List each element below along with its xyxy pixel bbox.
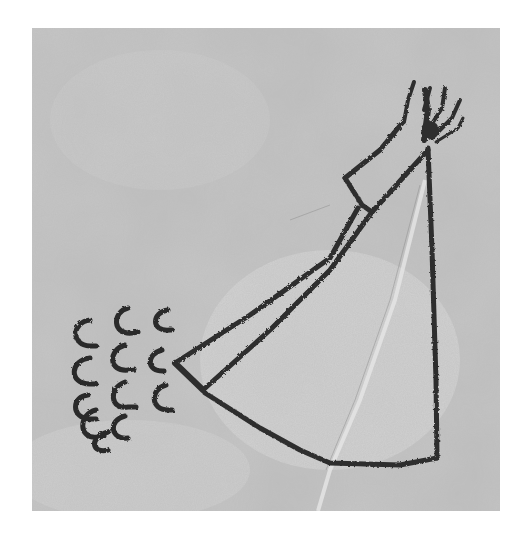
petroglyph-photo: Petroglyph: tipi outline with extended p… <box>32 28 500 511</box>
petroglyph-drawing <box>32 28 500 511</box>
